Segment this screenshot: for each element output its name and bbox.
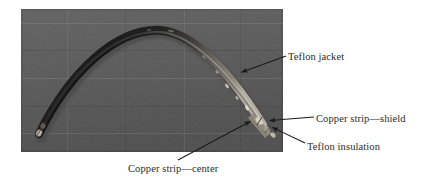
callout-label-copper-strip-center: Copper strip—center [128,163,218,175]
photograph-image [21,9,283,152]
figure-annotated-cable-photo: Teflon jacket Copper strip—shield Teflon… [0,0,427,184]
cable-photograph [21,9,283,152]
callout-label-teflon-jacket: Teflon jacket [288,51,344,63]
callout-label-teflon-insulation: Teflon insulation [307,141,380,153]
callout-label-copper-strip-shield: Copper strip—shield [316,113,406,125]
